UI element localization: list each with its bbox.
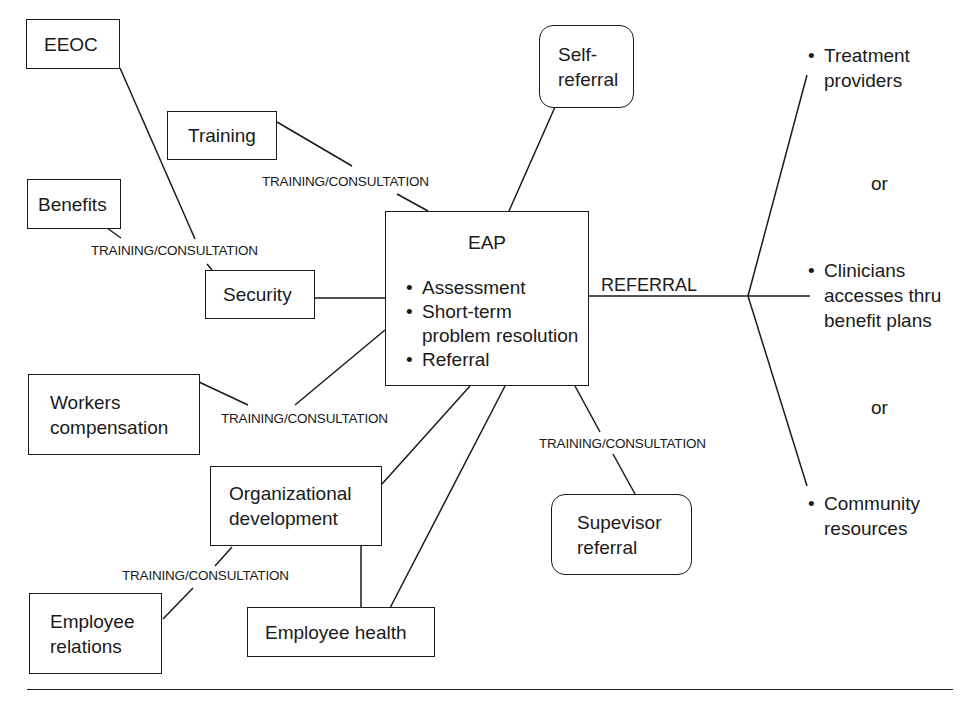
label-line: Organizational [229,481,352,506]
node-self-referral-label: Self- referral [558,42,618,92]
eap-function-list: Assessment Short-term problem resolution… [406,276,582,372]
node-employee-relations: Employee relations [29,593,162,674]
separator-or: or [871,395,888,420]
eap-title: EAP [386,232,588,254]
node-organizational-development-label: Organizational development [229,481,352,531]
edge-label-training-eap: TRAINING/CONSULTATION [262,174,429,189]
node-organizational-development: Organizational development [210,466,382,546]
label-line: Clinicians [824,258,941,283]
label-line: Workers [50,390,168,415]
eap-bullet: Short-term problem resolution [406,300,582,348]
edge-label-eap-supervisor: TRAINING/CONSULTATION [539,436,706,451]
node-employee-health: Employee health [247,607,435,657]
label-line: relations [50,634,135,659]
edge-label-relations-orgdev: TRAINING/CONSULTATION [122,568,289,583]
label-line: compensation [50,415,168,440]
node-training-label: Training [188,123,256,148]
bullet-dot: • [808,491,815,516]
label-line: Supevisor [577,510,662,535]
eap-bullet: Referral [406,348,582,372]
node-benefits: Benefits [27,179,121,229]
eap-bullet-text: Short-term problem resolution [422,300,582,348]
bullet-dot: • [808,43,815,68]
node-supervisor-referral-label: Supevisor referral [577,510,662,560]
node-benefits-label: Benefits [38,192,107,217]
node-eeoc-label: EEOC [44,32,98,57]
node-workers-compensation: Workers compensation [28,374,200,455]
edge-label-referral: REFERRAL [601,273,697,298]
node-eeoc: EEOC [26,19,120,69]
referral-target-community-resources: • Community resources [824,491,920,541]
label-line: referral [558,67,618,92]
node-workers-compensation-label: Workers compensation [50,390,168,440]
label-line: development [229,506,352,531]
edge-label-benefits-security: TRAINING/CONSULTATION [91,243,258,258]
label-line: accesses thru [824,283,941,308]
node-supervisor-referral: Supevisor referral [551,494,692,575]
label-line: benefit plans [824,308,941,333]
node-training: Training [167,111,277,160]
node-self-referral: Self- referral [539,25,634,108]
label-line: referral [577,535,662,560]
label-line: Community [824,491,920,516]
bullet-dot: • [808,258,815,283]
edge-label-workers-eap: TRAINING/CONSULTATION [221,411,388,426]
label-line: providers [824,68,910,93]
referral-target-treatment-providers: • Treatment providers [824,43,910,93]
node-security: Security [205,270,315,319]
node-security-label: Security [223,282,292,307]
referral-target-clinicians: • Clinicians accesses thru benefit plans [824,258,941,333]
node-employee-relations-label: Employee relations [50,609,135,659]
separator-or: or [871,171,888,196]
bottom-rule [27,689,953,690]
label-line: Employee [50,609,135,634]
label-line: Treatment [824,43,910,68]
label-line: Self- [558,42,618,67]
eap-box: EAP Assessment Short-term problem resolu… [385,211,589,386]
node-employee-health-label: Employee health [265,620,407,645]
label-line: resources [824,516,920,541]
eap-bullet: Assessment [406,276,582,300]
